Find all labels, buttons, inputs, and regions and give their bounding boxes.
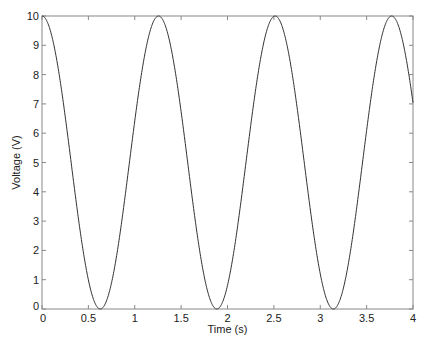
x-tick-label: 3.5 [359, 312, 374, 324]
x-tick-label: 4 [410, 312, 416, 324]
y-tick-label: 3 [33, 215, 39, 227]
y-tick-label: 1 [33, 274, 39, 286]
x-tick-label: 1.5 [173, 312, 188, 324]
x-tick-label: 1 [132, 312, 138, 324]
x-tick-label: 3 [317, 312, 323, 324]
x-axis-ticks: 00.511.522.533.54 [40, 16, 416, 324]
y-tick-label: 6 [33, 127, 39, 139]
y-tick-label: 0 [33, 300, 39, 312]
y-tick-label: 8 [33, 69, 39, 81]
y-tick-label: 7 [33, 98, 39, 110]
y-tick-label: 2 [33, 244, 39, 256]
x-tick-label: 0.5 [81, 312, 96, 324]
voltage-time-chart: 00.511.522.533.54 012345678910 Time (s) … [0, 0, 435, 348]
y-tick-label: 9 [33, 39, 39, 51]
y-tick-label: 4 [33, 186, 39, 198]
y-tick-label: 5 [33, 157, 39, 169]
y-axis-label: Voltage (V) [10, 135, 22, 189]
x-tick-label: 0 [40, 312, 46, 324]
y-tick-label: 10 [27, 10, 39, 22]
x-tick-label: 2.5 [266, 312, 281, 324]
voltage-line [42, 16, 413, 309]
plot-frame [42, 16, 413, 309]
y-axis-ticks: 012345678910 [27, 10, 413, 312]
x-axis-label: Time (s) [208, 323, 248, 335]
